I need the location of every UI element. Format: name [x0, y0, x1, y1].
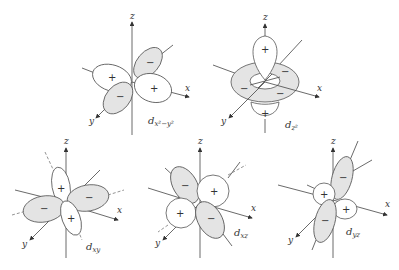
svg-text:x: x	[251, 203, 256, 213]
svg-text:y: y	[220, 116, 227, 126]
svg-text:+: +	[210, 186, 218, 197]
orbital-dxy: + − − + z x y dxy	[12, 136, 124, 258]
svg-text:x: x	[117, 205, 122, 215]
orbital-label: dx²−y²	[148, 115, 174, 128]
svg-text:−: −	[146, 57, 154, 68]
svg-text:z: z	[197, 136, 203, 146]
svg-text:+: +	[261, 44, 269, 55]
svg-text:z: z	[129, 11, 135, 21]
svg-text:−: −	[339, 172, 347, 183]
svg-text:x: x	[385, 199, 390, 209]
orbital-dxz: − + + − z x y dxz	[148, 136, 256, 258]
svg-text:y: y	[287, 235, 294, 245]
svg-text:−: −	[116, 91, 124, 102]
svg-text:x: x	[185, 83, 190, 93]
svg-text:+: +	[67, 213, 75, 224]
svg-text:z: z	[63, 136, 69, 146]
svg-text:−: −	[240, 83, 248, 94]
svg-text:−: −	[181, 180, 189, 191]
svg-text:z: z	[262, 12, 268, 22]
svg-text:−: −	[40, 203, 48, 214]
svg-text:x: x	[317, 83, 322, 93]
svg-text:y: y	[88, 116, 95, 126]
svg-text:+: +	[57, 183, 65, 194]
svg-text:z: z	[330, 136, 336, 146]
svg-text:+: +	[176, 208, 184, 219]
orbital-label: dxz	[234, 227, 248, 240]
orbital-label: dxy	[86, 241, 101, 254]
svg-text:−: −	[207, 213, 215, 224]
svg-text:−: −	[276, 88, 284, 99]
svg-text:y: y	[154, 238, 161, 248]
svg-text:−: −	[321, 215, 329, 226]
svg-text:−: −	[85, 192, 93, 203]
orbital-dz2: z x y + + − − − dz²	[213, 12, 322, 133]
orbital-dx2-y2: + − + − z x y dx²−y²	[82, 11, 190, 135]
svg-text:+: +	[150, 83, 158, 94]
orbital-label: dz²	[285, 119, 298, 132]
svg-text:+: +	[320, 189, 328, 200]
svg-text:−: −	[281, 66, 289, 77]
svg-text:+: +	[108, 72, 116, 83]
svg-text:y: y	[21, 239, 28, 249]
svg-text:+: +	[342, 204, 350, 215]
orbital-dyz: − + + − z x y dyz	[278, 136, 390, 258]
orbital-label: dyz	[346, 226, 360, 239]
d-orbitals-diagram: + − + − z x y dx²−y² z x y + + − − − dz²	[0, 0, 399, 270]
svg-text:+: +	[261, 108, 269, 119]
